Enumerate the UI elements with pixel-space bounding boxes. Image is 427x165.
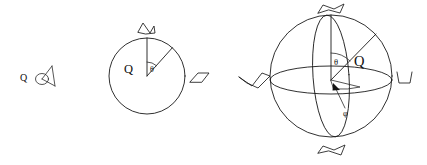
panel-circle: Q θ [109, 23, 209, 114]
sphere-phi-label: φ [343, 109, 348, 118]
sphere-charge-label: Q [354, 53, 365, 69]
ribbon-mark-circle-top [138, 23, 155, 34]
ribbon-mark-sphere-bottom [318, 145, 345, 155]
ribbon-mark-sphere-left [239, 73, 270, 88]
panel-sphere: Q θ φ [239, 4, 412, 155]
circle-theta-label: θ [150, 65, 154, 74]
figure-root: Q Q θ [0, 0, 427, 165]
sphere-phi-arrow-head [333, 83, 341, 91]
ribbon-mark-sphere-top [318, 4, 344, 13]
sphere-theta-label: θ [334, 57, 338, 67]
ribbon-mark-sphere-right [397, 72, 412, 83]
circle-charge-label: Q [124, 62, 133, 76]
panel-point: Q [20, 66, 55, 86]
point-wedge-closing-edge [52, 66, 55, 86]
point-charge-label: Q [20, 72, 28, 83]
ribbon-mark-circle-right [190, 73, 209, 82]
diagram-canvas: Q Q θ [0, 0, 427, 165]
point-wedge-upper-ray [42, 66, 52, 79]
